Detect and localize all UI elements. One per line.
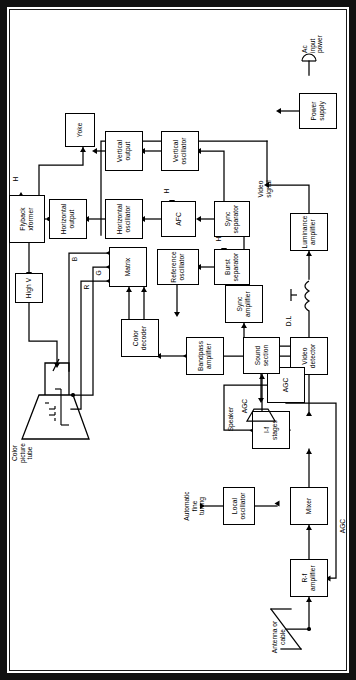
block-yoke[interactable]: Yoke [65, 113, 95, 147]
block-vertical-oscillator[interactable]: Vertical oscillator [161, 131, 199, 171]
arrow-sound-to-speaker [258, 398, 264, 403]
block-burst-separator[interactable]: Burst separator [214, 249, 250, 285]
label-video-signal: Video signal [257, 165, 272, 213]
arrow-if-to-videodet [306, 411, 312, 416]
block-vertical-output[interactable]: Vertical output [105, 131, 143, 171]
junction-crt-cathode [71, 393, 74, 396]
block-flyback-transformer[interactable]: Flyback xformer [9, 195, 45, 243]
arrow-rf-to-mixer [306, 525, 312, 530]
block-mixer[interactable]: Mixer [290, 487, 328, 525]
block-sync-separator[interactable]: Sync separator [214, 201, 250, 237]
block-luminance-amplifier[interactable]: Luminance amplifier [290, 213, 328, 251]
label-gun-g: G [95, 267, 103, 279]
arrow-refosc-to-colordec [174, 312, 180, 317]
diagram-rotation-wrapper: R-f amplifier Mixer Local oscillator I-f… [9, 9, 347, 671]
block-matrix[interactable]: Matrix [109, 247, 147, 287]
block-if-stages[interactable]: I-f stages [252, 411, 290, 449]
arrow-mixer-to-if [306, 449, 312, 454]
block-high-voltage[interactable]: High V [15, 273, 43, 303]
label-h-flyback: H [12, 173, 20, 185]
block-sound-section[interactable]: Sound section [243, 337, 280, 374]
junction-antenna-feed [307, 627, 310, 630]
block-local-oscillator[interactable]: Local oscillator [223, 487, 255, 525]
tv-receiver-block-diagram: R-f amplifier Mixer Local oscillator I-f… [9, 9, 347, 671]
arrow-if-to-sound [259, 374, 265, 379]
figure-page: R-f amplifier Mixer Local oscillator I-f… [0, 0, 356, 680]
label-agc-line-rf: AGC [339, 511, 347, 541]
block-power-supply[interactable]: Power supply [299, 93, 337, 129]
arrow-videodet-to-syncamp [241, 323, 247, 328]
block-horizontal-output[interactable]: Horizontal output [49, 199, 87, 239]
arrow-powersupply-out [276, 108, 281, 114]
label-h-afc: H [163, 185, 171, 197]
arrow-colordec-to-matrix-2 [126, 287, 132, 292]
arrow-colordec-to-matrix-1 [141, 287, 147, 292]
label-h-burst: H [215, 233, 223, 245]
block-reference-oscillator[interactable]: Reference oscillator [157, 249, 199, 285]
arrow-flyback-to-yoke [80, 147, 86, 152]
arrow-syncsep-to-afc [196, 216, 201, 222]
label-automatic-fine-tuning: Automatic fine tuning [183, 473, 206, 539]
block-color-decoder[interactable]: Color decoder [121, 319, 159, 357]
arrow-highv-to-crt [54, 363, 60, 368]
block-horizontal-oscillator[interactable]: Horizontal oscillator [105, 199, 143, 239]
label-speaker: Speaker [227, 399, 235, 439]
block-bandpass-amplifier[interactable]: Bandpass amplifier [186, 337, 224, 375]
arrow-localosc-to-mixer [275, 501, 280, 507]
arrow-dl-to-luminance [306, 251, 312, 256]
arrow-antenna-to-rf [306, 597, 312, 602]
label-gun-r: R [83, 281, 91, 293]
label-delay-line: D.L [285, 311, 293, 331]
label-color-picture-tube: Color picture tube [11, 431, 34, 475]
label-ac-input-power: Ac input power [301, 13, 324, 53]
block-sync-amplifier[interactable]: Sync amplifier [225, 285, 263, 323]
label-antenna: Antenna or cable [271, 609, 286, 665]
block-afc[interactable]: AFC [161, 201, 196, 237]
label-agc-line-if: AGC [241, 391, 249, 421]
arrow-vertout-to-yoke [92, 148, 97, 154]
block-rf-amplifier[interactable]: R-f amplifier [290, 559, 328, 597]
label-gun-b: B [71, 253, 79, 265]
